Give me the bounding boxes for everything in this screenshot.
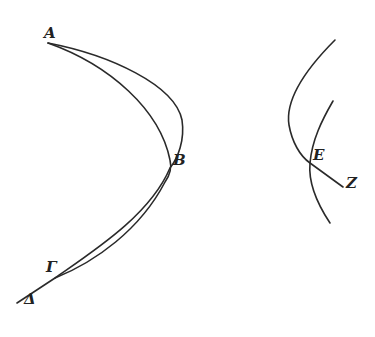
- label-E: E: [313, 148, 324, 163]
- label-delta: Δ: [24, 292, 36, 307]
- label-Z: Z: [346, 176, 357, 191]
- curve-outer-left: [17, 43, 183, 303]
- label-B: B: [173, 153, 186, 168]
- curve-right-outer: [288, 40, 343, 187]
- diagram-canvas: [0, 0, 375, 337]
- curve-inner-left: [48, 43, 171, 278]
- label-gamma: Γ: [46, 260, 57, 275]
- label-A: A: [44, 26, 56, 41]
